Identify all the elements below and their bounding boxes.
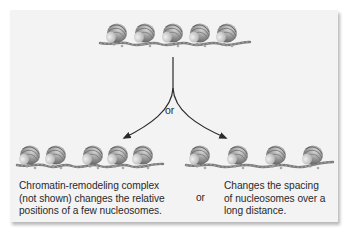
middle-or-label: or [196,192,205,205]
right-outcome-caption: Changes the spacing of nucleosomes over … [224,180,342,218]
right-nucleosome-array [186,146,333,170]
left-nucleosome-array [17,146,163,170]
arrow-right [173,88,226,138]
branch-or-label: or [165,104,174,116]
left-outcome-caption: Chromatin-remodeling complex (not shown)… [19,180,179,218]
top-nucleosome-array [100,24,250,48]
branching-arrows [124,57,226,138]
